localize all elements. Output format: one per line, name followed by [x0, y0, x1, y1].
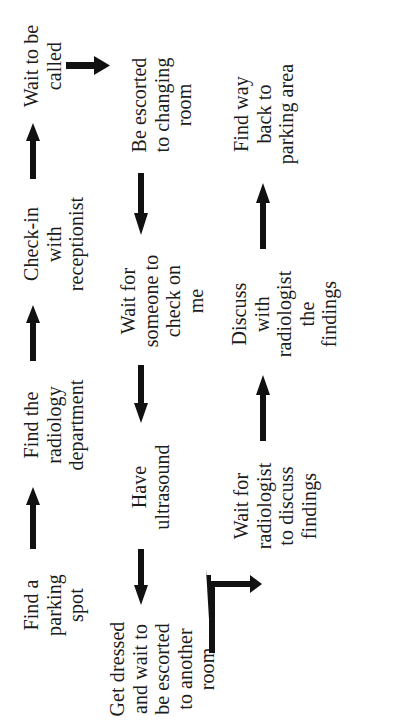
flow-node-wait-to-be-called: Wait to be called [20, 11, 65, 121]
flow-arrow-wait-check-to-ultrasound [130, 365, 152, 423]
flow-arrow-wait-called-to-be-escorted [66, 51, 110, 75]
flow-node-find-the-radiology-department: Find the radiology department [20, 363, 88, 487]
flow-node-have-ultrasound: Have ultrasound [128, 429, 173, 545]
flow-node-be-escorted-to-changing-room: Be escorted to changing room [128, 39, 196, 171]
flow-node-get-dressed-and-wait-to-be-escorted: Get dressed and wait to be escorted to a… [106, 607, 219, 720]
flow-arrow-parking-to-radiology [22, 487, 44, 549]
flow-node-check-in-with-receptionist: Check-in with receptionist [20, 183, 88, 305]
flow-arrow-get-dressed-to-wait-radiologist [206, 569, 262, 653]
flow-arrow-discuss-to-find-way-back [252, 183, 274, 249]
flow-arrow-changing-room-to-wait-check [130, 173, 152, 235]
flow-arrow-radiology-to-checkin [22, 305, 44, 361]
flow-arrow-checkin-to-wait-called [22, 123, 44, 179]
flow-arrow-ultrasound-to-get-dressed [130, 549, 152, 605]
flow-node-find-way-back-to-parking-area: Find way back to parking area [230, 47, 298, 181]
flow-node-find-a-parking-spot: Find a parking spot [20, 551, 88, 659]
flow-node-discuss-with-radiologist-the-findings: Discuss with radiologist the findings [228, 255, 341, 373]
flow-arrow-wait-radiologist-to-discuss [252, 375, 274, 441]
flow-node-wait-for-radiologist-to-discuss-findings: Wait for radiologist to discuss findings [230, 447, 320, 565]
flow-node-wait-for-someone-to-check-on-me: Wait for someone to check on me [117, 239, 207, 363]
